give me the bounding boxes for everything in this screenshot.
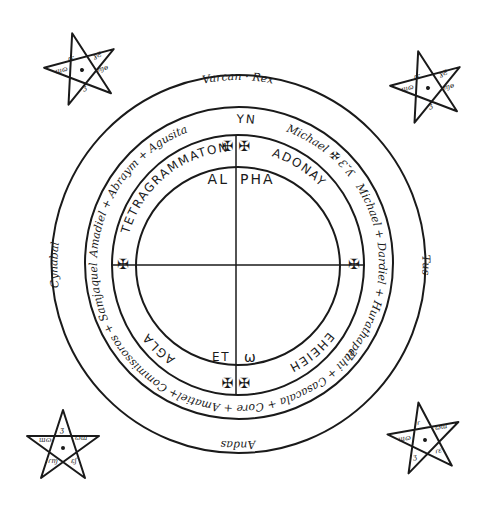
center-pha: PHA	[240, 171, 275, 187]
pentagram-top-right: ɾɛɣƧ ɯɷɱɵ ʒ	[383, 42, 470, 126]
cross-right: ✠	[348, 256, 360, 272]
outer-ring-top-label: Varcan · Rex	[201, 70, 275, 87]
svg-text:ɱɵ: ɱɵ	[442, 81, 455, 92]
svg-text:ɾ: ɾ	[416, 419, 421, 428]
pentagram-center-dot	[80, 68, 85, 73]
star-icon	[37, 24, 124, 108]
pentagram-center-dot	[426, 86, 431, 91]
inner-circle	[136, 167, 340, 365]
center-omega: ω	[244, 349, 258, 365]
star-icon	[383, 42, 470, 126]
svg-text:ɷɯ: ɷɯ	[434, 422, 448, 432]
pentagram-bottom-right: ɾɷɯ ɯɷɾɛ ʒ	[383, 396, 466, 475]
star-icon	[27, 410, 99, 478]
svg-text:ʒ: ʒ	[59, 426, 64, 434]
svg-text:ɯɷ: ɯɷ	[398, 433, 412, 443]
cross-bottom: ✠ ✠	[222, 375, 250, 391]
outer-ring-bottom-label: Andas	[220, 438, 257, 452]
svg-text:ɾɛ: ɾɛ	[67, 54, 76, 64]
svg-text:ɾɱ: ɾɱ	[48, 457, 58, 465]
svg-text:ɛʃ: ɛʃ	[71, 457, 78, 465]
cross-left: ✠	[117, 256, 129, 272]
svg-text:ɯɷ: ɯɷ	[39, 436, 52, 444]
center-et: ET	[212, 350, 230, 364]
svg-text:ɷɯ: ɷɯ	[75, 434, 88, 442]
pentagram-top-left: ɾɛɣƧ ɯɷɱɵ ʒ	[37, 24, 124, 108]
outer-ring-right-label: Tus	[419, 255, 432, 276]
outer-ring-left-label: Cynabal	[47, 241, 62, 289]
svg-text:ɱɵ: ɱɵ	[96, 63, 109, 74]
inner-ring-agla: AGLA	[139, 330, 177, 367]
magic-circle-diagram: Varcan · Rex Tus Andas Cynabal YAYN Mich…	[0, 0, 490, 513]
middle-ring-bottom-right-label: Tahi + Casacala + Core + Amatiel	[175, 346, 360, 415]
pentagram-bottom-left: ʒɷɯ ɯɷɛʃ ɾɱ	[27, 410, 99, 478]
svg-text:ɯɷ: ɯɷ	[55, 65, 69, 76]
svg-text:ʒ: ʒ	[411, 453, 417, 462]
svg-text:ɾɛ: ɾɛ	[413, 72, 422, 82]
svg-text:ɯɷ: ɯɷ	[401, 83, 415, 94]
pentagram-center-dot	[423, 438, 428, 443]
star-icon	[383, 396, 466, 475]
rings	[52, 75, 426, 453]
center-al: AL	[208, 171, 229, 187]
pentagram-center-dot	[61, 446, 65, 450]
outer-circle	[52, 75, 426, 453]
cross-top: ✠ ✠	[222, 138, 250, 154]
